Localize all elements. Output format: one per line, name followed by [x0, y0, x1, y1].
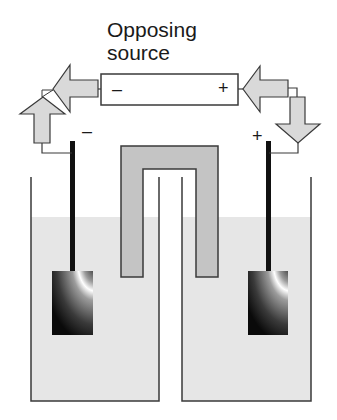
battery-positive-sign: +	[218, 79, 229, 97]
left-wire	[42, 143, 72, 153]
left-arrow-icon	[53, 65, 98, 112]
title-line-2: source	[107, 41, 197, 64]
left-electrode-negative-sign: –	[82, 122, 92, 140]
right-corner-wire	[288, 88, 297, 97]
right-wire	[269, 143, 298, 153]
right-electrode-positive-sign: +	[252, 127, 263, 145]
left-electrode-plate	[52, 271, 93, 335]
left-electrode-rod	[70, 141, 75, 271]
electrochemical-cell-diagram: Opposing source – + – +	[0, 0, 337, 420]
title-line-1: Opposing	[107, 18, 197, 41]
up-arrow-icon	[20, 97, 65, 143]
battery-negative-sign: –	[112, 80, 122, 98]
left-corner-joint	[42, 90, 53, 97]
salt-bridge	[121, 146, 218, 277]
right-electrode-plate	[248, 271, 288, 335]
opposing-source-label: Opposing source	[107, 18, 197, 64]
right-top-arrow-icon	[243, 66, 288, 112]
down-arrow-icon	[276, 97, 320, 143]
right-electrode-rod	[266, 141, 271, 271]
